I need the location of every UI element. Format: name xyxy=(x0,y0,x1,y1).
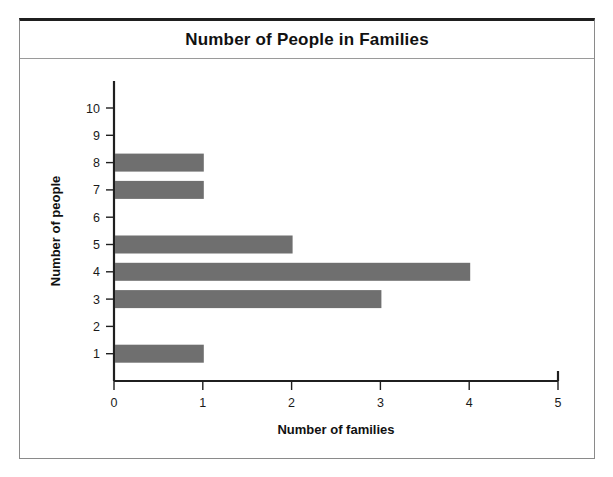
y-tick-label-3: 3 xyxy=(93,293,100,307)
plot-area: 12345678910 012345 Number of families Nu… xyxy=(20,59,594,461)
x-tick-label-3: 3 xyxy=(377,396,384,410)
chart-page: Number of People in Families 12345678910… xyxy=(0,0,613,477)
x-ticks-group: 012345 xyxy=(111,381,562,410)
bar-category-7 xyxy=(115,181,204,199)
y-tick-label-4: 4 xyxy=(93,265,100,279)
bar-category-3 xyxy=(115,290,381,308)
x-axis-title: Number of families xyxy=(277,422,394,437)
x-tick-label-1: 1 xyxy=(199,396,206,410)
bars-group xyxy=(115,154,470,363)
chart-card: Number of People in Families 12345678910… xyxy=(19,18,595,459)
bar-chart-svg: 12345678910 012345 Number of families Nu… xyxy=(20,59,596,461)
bar-category-4 xyxy=(115,263,470,281)
y-tick-label-8: 8 xyxy=(93,156,100,170)
x-tick-label-5: 5 xyxy=(555,396,562,410)
y-tick-label-9: 9 xyxy=(93,129,100,143)
chart-title-band: Number of People in Families xyxy=(20,21,594,59)
y-tick-label-10: 10 xyxy=(86,102,100,116)
bar-category-1 xyxy=(115,345,204,363)
y-ticks-group: 12345678910 xyxy=(86,102,114,362)
y-tick-label-5: 5 xyxy=(93,238,100,252)
page-title: Number of People in Families xyxy=(185,30,429,50)
x-tick-label-0: 0 xyxy=(111,396,118,410)
y-tick-label-7: 7 xyxy=(93,183,100,197)
y-tick-label-1: 1 xyxy=(93,347,100,361)
y-tick-label-6: 6 xyxy=(93,211,100,225)
y-tick-label-2: 2 xyxy=(93,320,100,334)
x-tick-label-2: 2 xyxy=(288,396,295,410)
axes xyxy=(114,81,558,381)
y-axis-title: Number of people xyxy=(48,176,63,287)
x-tick-label-4: 4 xyxy=(466,396,473,410)
bar-category-8 xyxy=(115,154,204,172)
bar-category-5 xyxy=(115,236,293,254)
